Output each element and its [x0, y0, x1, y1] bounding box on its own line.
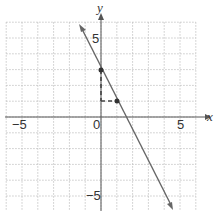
coordinate-plane: x y −5 0 5 5 −5: [0, 0, 216, 211]
point-0-3: [99, 68, 104, 73]
x-tick-neg5: −5: [12, 117, 27, 132]
x-axis-label: x: [206, 109, 213, 124]
y-axis-label: y: [95, 0, 103, 15]
line-arrow-bottom-icon: [167, 202, 173, 210]
y-tick-5: 5: [92, 31, 99, 46]
y-tick-neg5: −5: [86, 188, 101, 203]
x-tick-5: 5: [177, 117, 184, 132]
point-1-1: [115, 99, 120, 104]
origin-label: 0: [93, 117, 100, 132]
